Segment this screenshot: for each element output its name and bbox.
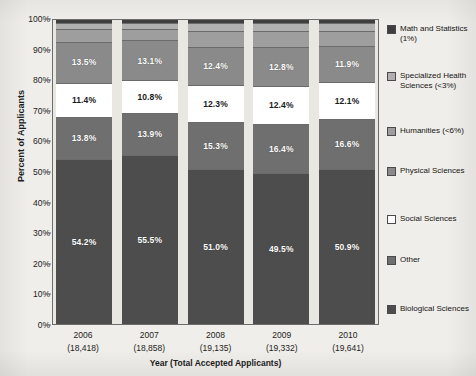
bar-segment-value-label: 11.9% — [335, 60, 359, 69]
legend-item-label: Math and Statistics (1%) — [400, 24, 475, 43]
y-axis-tick-label: 40% — [6, 198, 50, 208]
bar-segment: 55.5% — [122, 155, 178, 324]
y-axis-tick-mark — [45, 80, 51, 81]
bar-segment: 16.4% — [253, 124, 309, 174]
bar-segment: 12.4% — [253, 86, 309, 124]
x-axis-title: Year (Total Accepted Applicants) — [52, 358, 379, 368]
legend-item-label: Physical Sciences — [400, 166, 464, 176]
bar-segment: 54.2% — [56, 159, 112, 324]
bar-segment-value-label: 16.4% — [269, 145, 294, 154]
y-axis-tick-mark — [45, 263, 51, 264]
legend-swatch-icon — [387, 72, 396, 81]
legend-item-label: Other — [400, 255, 420, 265]
legend-item: Math and Statistics (1%) — [387, 24, 475, 43]
bar-segment-value-label: 12.8% — [269, 63, 294, 72]
bar-segment: 13.9% — [122, 113, 178, 155]
legend-swatch-icon — [387, 305, 396, 314]
bar-segment — [253, 23, 309, 31]
bar-segment-value-label: 16.6% — [335, 140, 360, 149]
x-axis-tick-label: 2007(18,858) — [121, 329, 177, 355]
bar-segment — [56, 29, 112, 41]
bar-segment-value-label: 12.1% — [335, 97, 360, 106]
legend-item-label: Specialized Health Sciences (<3%) — [400, 71, 475, 90]
bar-segment-value-label: 12.4% — [269, 101, 294, 110]
y-axis-tick-mark — [45, 49, 51, 50]
x-axis-applicant-count: (19,641) — [320, 342, 376, 355]
x-axis-applicant-count: (18,858) — [121, 342, 177, 355]
y-axis-tick-mark — [45, 325, 51, 326]
bar-segment-value-label: 13.8% — [72, 134, 97, 143]
x-axis-applicant-count: (19,135) — [188, 342, 244, 355]
bar-segment — [319, 23, 375, 31]
y-axis-tick-label: 70% — [6, 106, 50, 116]
x-axis-year: 2007 — [121, 329, 177, 342]
bar-segment: 12.4% — [188, 47, 244, 85]
bar-segment-value-label: 50.9% — [335, 243, 360, 252]
bar-segment: 13.8% — [56, 117, 112, 159]
x-axis-year: 2008 — [188, 329, 244, 342]
legend-item: Humanities (<6%) — [387, 126, 464, 136]
x-axis-year: 2006 — [55, 329, 111, 342]
y-axis-tick-mark — [45, 141, 51, 142]
legend-swatch-icon — [387, 25, 396, 34]
bar-segment — [253, 31, 309, 47]
y-axis-tick-label: 0% — [6, 320, 50, 330]
legend-swatch-icon — [387, 167, 396, 176]
y-axis-tick-label: 50% — [6, 167, 50, 177]
y-axis-tick-mark — [45, 233, 51, 234]
bar-segment-value-label: 12.3% — [203, 100, 228, 109]
y-axis-tick-mark — [45, 19, 51, 20]
legend-item: Physical Sciences — [387, 166, 464, 176]
bar-segment-value-label: 13.1% — [137, 57, 162, 66]
x-axis-tick-label: 2010(19,641) — [320, 329, 376, 355]
x-axis: 2006(18,418)2007(18,858)2008(19,135)2009… — [52, 329, 379, 355]
legend-item-label: Biological Sciences — [400, 304, 469, 314]
bar-segment — [188, 31, 244, 47]
stacked-bar: 12.8%12.4%16.4%49.5% — [253, 20, 309, 324]
y-axis-tick-mark — [45, 202, 51, 203]
legend-item: Other — [387, 255, 420, 265]
y-axis-tick-label: 90% — [6, 45, 50, 55]
bar-segment: 15.3% — [188, 122, 244, 169]
bar-segment: 50.9% — [319, 169, 375, 324]
bar-segment-value-label: 51.0% — [203, 243, 228, 252]
bar-segment-value-label: 12.4% — [203, 62, 228, 71]
bar-segment-value-label: 49.5% — [269, 245, 294, 254]
y-axis-tick-label: 10% — [6, 289, 50, 299]
legend-item-label: Social Sciences — [400, 214, 456, 224]
x-axis-year: 2010 — [320, 329, 376, 342]
x-axis-tick-label: 2008(19,135) — [188, 329, 244, 355]
x-axis-applicant-count: (18,418) — [55, 342, 111, 355]
bar-segment: 12.1% — [319, 82, 375, 119]
bar-segment-value-label: 54.2% — [72, 238, 97, 247]
bar-segment: 51.0% — [188, 169, 244, 324]
x-axis-year: 2009 — [254, 329, 310, 342]
bar-segment-value-label: 10.8% — [137, 93, 162, 102]
bar-segment-value-label: 15.3% — [203, 142, 228, 151]
y-axis-tick-label: 80% — [6, 75, 50, 85]
plot-area: 13.5%11.4%13.8%54.2%13.1%10.8%13.9%55.5%… — [52, 19, 379, 325]
legend-item: Biological Sciences — [387, 304, 469, 314]
stacked-bar: 11.9%12.1%16.6%50.9% — [319, 20, 375, 324]
bar-segment: 16.6% — [319, 119, 375, 169]
bar-segment: 12.3% — [188, 85, 244, 122]
legend-item: Social Sciences — [387, 214, 456, 224]
x-axis-tick-label: 2009(19,332) — [254, 329, 310, 355]
y-axis-tick-label: 20% — [6, 259, 50, 269]
bar-segment — [188, 23, 244, 31]
y-axis-tick-mark — [45, 110, 51, 111]
bar-segment: 13.1% — [122, 40, 178, 80]
legend-swatch-icon — [387, 127, 396, 136]
y-axis-tick-label: 30% — [6, 228, 50, 238]
chart-figure: Percent of Applicants 0%10%20%30%40%50%6… — [0, 0, 476, 376]
stacked-bar: 12.4%12.3%15.3%51.0% — [188, 20, 244, 324]
bar-segment-value-label: 13.5% — [72, 58, 97, 67]
bar-segment — [319, 31, 375, 46]
bar-segment — [122, 29, 178, 40]
bar-segment: 11.4% — [56, 83, 112, 118]
x-axis-applicant-count: (19,332) — [254, 342, 310, 355]
y-axis-tick-label: 60% — [6, 136, 50, 146]
bar-group: 13.5%11.4%13.8%54.2%13.1%10.8%13.9%55.5%… — [53, 20, 378, 324]
bar-segment-value-label: 13.9% — [137, 130, 162, 139]
bar-segment-value-label: 55.5% — [137, 236, 162, 245]
